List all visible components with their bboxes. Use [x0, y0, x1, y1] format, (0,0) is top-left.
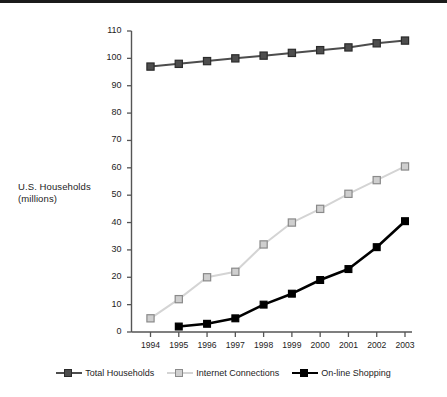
data-point-marker — [288, 290, 295, 297]
data-point-marker — [203, 274, 210, 281]
line-chart: U.S. Households (millions) 0102030405060… — [0, 0, 447, 397]
legend-label: Internet Connections — [196, 368, 279, 378]
data-point-marker — [232, 268, 239, 275]
data-point-marker — [147, 315, 154, 322]
data-point-marker — [373, 177, 380, 184]
data-point-marker — [147, 63, 154, 70]
data-point-marker — [260, 52, 267, 59]
y-axis-tick-label: 100 — [96, 52, 122, 62]
data-point-marker — [175, 323, 182, 330]
data-point-marker — [204, 320, 211, 327]
y-axis-tick-label: 80 — [96, 107, 122, 117]
y-axis-tick-label: 30 — [96, 244, 122, 254]
data-point-marker — [345, 266, 352, 273]
y-axis-tick-label: 110 — [96, 25, 122, 35]
legend-swatch-icon — [167, 367, 193, 378]
data-point-marker — [373, 244, 380, 251]
y-axis-tick-label: 10 — [96, 299, 122, 309]
chart-legend: Total HouseholdsInternet ConnectionsOn-l… — [0, 367, 447, 378]
data-point-marker — [288, 219, 295, 226]
y-axis-tick-label: 0 — [96, 326, 122, 336]
data-point-marker — [175, 60, 182, 67]
legend-marker — [175, 369, 183, 377]
data-point-marker — [175, 296, 182, 303]
data-point-marker — [402, 218, 409, 225]
y-axis-tick-label: 20 — [96, 271, 122, 281]
data-point-marker — [260, 301, 267, 308]
series-line-2 — [179, 221, 405, 326]
y-axis-tick-label: 70 — [96, 134, 122, 144]
data-point-marker — [373, 40, 380, 47]
legend-marker — [300, 369, 308, 377]
y-axis-tick-label: 50 — [96, 189, 122, 199]
data-point-marker — [232, 315, 239, 322]
data-point-marker — [317, 205, 324, 212]
y-axis-tick-label: 40 — [96, 217, 122, 227]
legend-label: Total Households — [85, 368, 154, 378]
data-point-marker — [401, 37, 408, 44]
series-line-0 — [151, 41, 406, 67]
data-point-marker — [401, 163, 408, 170]
legend-marker — [64, 369, 72, 377]
legend-swatch-icon — [56, 367, 82, 378]
y-axis-tick-label: 90 — [96, 80, 122, 90]
data-point-marker — [345, 190, 352, 197]
legend-item[interactable]: Total Households — [56, 367, 154, 378]
data-point-marker — [260, 241, 267, 248]
legend-label: On-line Shopping — [321, 368, 391, 378]
data-point-marker — [317, 47, 324, 54]
data-point-marker — [345, 44, 352, 51]
legend-item[interactable]: Internet Connections — [167, 367, 279, 378]
chart-series-group — [147, 37, 409, 330]
data-point-marker — [203, 58, 210, 65]
legend-swatch-icon — [292, 367, 318, 378]
data-point-marker — [288, 49, 295, 56]
series-line-1 — [151, 166, 406, 318]
data-point-marker — [317, 277, 324, 284]
x-axis-tick-label: 2003 — [388, 340, 422, 350]
y-axis-tick-label: 60 — [96, 162, 122, 172]
data-point-marker — [232, 55, 239, 62]
legend-item[interactable]: On-line Shopping — [292, 367, 391, 378]
